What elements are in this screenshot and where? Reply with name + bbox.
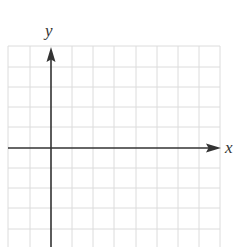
x-axis-label: x xyxy=(224,138,233,157)
y-axis xyxy=(47,47,56,247)
coordinate-plane: x y xyxy=(0,0,237,247)
y-axis-label: y xyxy=(43,21,53,40)
grid-lines xyxy=(8,46,220,247)
